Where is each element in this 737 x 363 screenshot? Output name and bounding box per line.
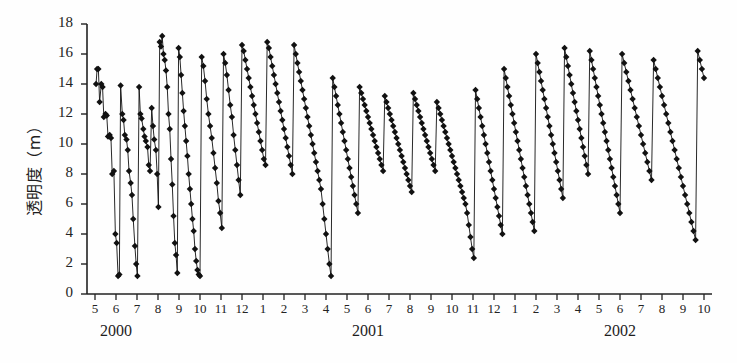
data-point-marker <box>170 213 176 219</box>
y-tick-label: 2 <box>47 254 73 271</box>
data-point-marker <box>393 135 399 141</box>
data-point-marker <box>360 96 366 102</box>
data-point-marker <box>343 147 349 153</box>
y-tick-label: 8 <box>47 164 73 181</box>
y-axis-ticks <box>81 24 87 294</box>
data-point-marker <box>415 108 421 114</box>
data-point-marker <box>550 141 556 147</box>
data-point-marker <box>619 51 625 57</box>
data-point-marker <box>692 237 698 243</box>
data-point-marker <box>597 102 603 108</box>
data-point-marker <box>523 183 529 189</box>
data-point-marker <box>154 171 160 177</box>
data-point-marker <box>496 213 502 219</box>
data-point-marker <box>314 168 320 174</box>
data-point-marker <box>117 82 123 88</box>
data-point-marker <box>612 183 618 189</box>
data-point-marker <box>177 54 183 60</box>
y-tick-label: 10 <box>47 134 73 151</box>
data-point-marker <box>129 192 135 198</box>
data-point-marker <box>634 114 640 120</box>
data-point-marker <box>173 252 179 258</box>
data-point-marker <box>467 234 473 240</box>
data-point-marker <box>182 123 188 129</box>
data-point-marker <box>168 156 174 162</box>
data-point-marker <box>264 39 270 45</box>
data-point-marker <box>361 102 367 108</box>
data-point-marker <box>629 96 635 102</box>
data-point-marker <box>445 141 451 147</box>
data-point-marker <box>340 129 346 135</box>
data-point-marker <box>459 189 465 195</box>
data-point-marker <box>188 201 194 207</box>
data-point-marker <box>688 219 694 225</box>
data-point-marker <box>198 54 204 60</box>
data-point-marker <box>375 150 381 156</box>
data-point-marker <box>397 147 403 153</box>
data-point-marker <box>366 120 372 126</box>
data-point-marker <box>281 126 287 132</box>
data-point-marker <box>309 141 315 147</box>
data-point-marker <box>548 132 554 138</box>
data-point-marker <box>210 150 216 156</box>
data-point-marker <box>162 57 168 63</box>
data-point-marker <box>164 84 170 90</box>
data-point-marker <box>432 168 438 174</box>
data-point-marker <box>402 165 408 171</box>
data-point-marker <box>303 105 309 111</box>
data-point-marker <box>239 42 245 48</box>
data-point-marker <box>184 153 190 159</box>
year-label: 2002 <box>585 322 655 340</box>
data-point-marker <box>518 156 524 162</box>
data-point-marker <box>193 258 199 264</box>
data-point-marker <box>137 111 143 117</box>
data-point-marker <box>663 111 669 117</box>
data-point-marker <box>95 66 101 72</box>
data-point-marker <box>486 159 492 165</box>
data-point-marker <box>240 48 246 54</box>
data-point-marker <box>573 108 579 114</box>
data-point-marker <box>576 126 582 132</box>
data-point-marker <box>499 231 505 237</box>
data-point-marker <box>306 123 312 129</box>
data-point-marker <box>632 105 638 111</box>
data-point-marker <box>267 54 273 60</box>
data-point-marker <box>346 165 352 171</box>
data-point-marker <box>130 216 136 222</box>
data-point-marker <box>669 138 675 144</box>
data-point-marker <box>202 78 208 84</box>
data-point-marker <box>351 192 357 198</box>
data-point-marker <box>595 93 601 99</box>
data-point-marker <box>648 177 654 183</box>
data-point-marker <box>328 273 334 279</box>
data-point-marker <box>224 72 230 78</box>
data-point-marker <box>237 192 243 198</box>
data-point-marker <box>560 195 566 201</box>
data-point-marker <box>434 99 440 105</box>
data-point-marker <box>541 96 547 102</box>
data-point-marker <box>179 90 185 96</box>
series-markers <box>93 33 707 279</box>
data-point-marker <box>189 216 195 222</box>
data-point-marker <box>590 66 596 72</box>
data-point-marker <box>699 66 705 72</box>
data-point-marker <box>269 63 275 69</box>
data-point-marker <box>543 105 549 111</box>
data-point-marker <box>538 78 544 84</box>
data-point-marker <box>555 168 561 174</box>
data-point-marker <box>466 222 472 228</box>
data-point-marker <box>220 51 226 57</box>
data-point-marker <box>382 93 388 99</box>
data-point-marker <box>282 135 288 141</box>
data-point-marker <box>454 171 460 177</box>
data-point-marker <box>247 84 253 90</box>
data-point-marker <box>424 138 430 144</box>
year-label: 2001 <box>333 322 403 340</box>
data-point-marker <box>546 123 552 129</box>
data-point-marker <box>602 129 608 135</box>
data-point-marker <box>461 195 467 201</box>
y-tick-label: 4 <box>47 224 73 241</box>
data-point-marker <box>456 177 462 183</box>
data-point-marker <box>207 123 213 129</box>
data-point-marker <box>603 138 609 144</box>
